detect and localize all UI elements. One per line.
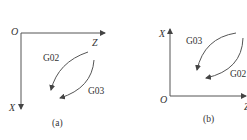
arc-label-lower-right-b: G02 (230, 69, 247, 79)
arc-upper-left-b (197, 33, 236, 70)
panel-b: O X Z G03 G02 (b) (158, 28, 247, 125)
panel-a: O Z X G02 G03 (a) (8, 26, 105, 129)
diagram-canvas: O Z X G02 G03 (a) O X Z G03 G02 (b) (0, 0, 247, 140)
arc-label-upper-left-a: G02 (43, 53, 60, 63)
z-axis-label-a: Z (92, 37, 98, 48)
origin-label-b: O (160, 94, 167, 105)
x-axis-label-a: X (8, 102, 16, 113)
x-axis-label-b: X (158, 28, 166, 39)
caption-a: (a) (52, 118, 63, 129)
arc-label-upper-left-b: G03 (186, 36, 203, 46)
arc-label-lower-right-a: G03 (88, 86, 105, 96)
origin-label-a: O (11, 26, 18, 37)
caption-b: (b) (203, 114, 214, 125)
z-axis-label-b: Z (244, 101, 247, 112)
